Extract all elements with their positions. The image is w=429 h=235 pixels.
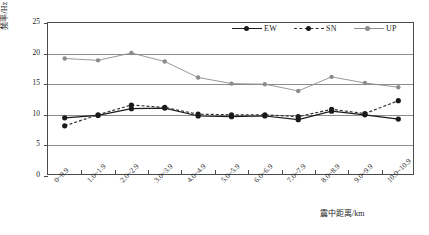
data-point-up <box>229 81 233 85</box>
legend-swatch-sn <box>294 25 324 32</box>
data-point-up <box>129 51 133 55</box>
data-point-up <box>196 75 200 79</box>
legend-item-up[interactable]: UP <box>354 24 397 33</box>
data-point-up <box>396 85 400 89</box>
legend-label: UP <box>386 24 397 33</box>
legend-item-ew[interactable]: EW <box>232 24 277 33</box>
data-point-up <box>263 82 267 86</box>
chart-figure: 频率/Hz 0510152025 0~0.91.0~1.92.0~2.93.0~… <box>0 0 429 235</box>
data-point-sn <box>396 98 401 103</box>
data-point-sn <box>95 112 100 117</box>
y-axis-tick-label: 15 <box>16 79 40 87</box>
data-point-sn <box>262 112 267 117</box>
data-point-sn <box>62 123 67 128</box>
x-axis-title: 震中距离/km <box>320 207 364 218</box>
data-point-sn <box>196 112 201 117</box>
chart-legend: EWSNUP <box>232 24 397 33</box>
y-axis-tick-label: 10 <box>16 110 40 118</box>
legend-item-sn[interactable]: SN <box>294 24 337 33</box>
legend-swatch-up <box>354 25 384 32</box>
series-lines <box>48 23 415 176</box>
legend-swatch-ew <box>232 25 262 32</box>
y-axis-tick-label: 5 <box>16 140 40 148</box>
legend-label: SN <box>326 24 337 33</box>
plot-area <box>47 22 414 175</box>
y-axis-tick-label: 20 <box>16 49 40 57</box>
legend-label: EW <box>264 24 277 33</box>
y-axis-tick <box>44 176 48 177</box>
data-point-up <box>296 89 300 93</box>
data-point-sn <box>296 114 301 119</box>
y-axis-tick-label: 0 <box>16 171 40 179</box>
data-point-up <box>96 58 100 62</box>
y-axis-title: 频率/Hz <box>0 0 9 30</box>
data-point-sn <box>162 105 167 110</box>
data-point-up <box>62 56 66 60</box>
data-point-ew <box>396 116 401 121</box>
data-point-up <box>163 59 167 63</box>
data-point-sn <box>129 102 134 107</box>
data-point-up <box>329 75 333 79</box>
data-point-up <box>363 81 367 85</box>
data-point-sn <box>229 112 234 117</box>
data-point-sn <box>329 107 334 112</box>
data-point-ew <box>62 115 67 120</box>
data-point-sn <box>362 111 367 116</box>
y-axis-tick-label: 25 <box>16 18 40 26</box>
